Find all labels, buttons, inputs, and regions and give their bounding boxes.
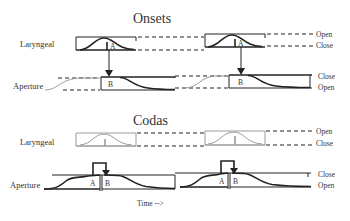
- marker-a: A: [219, 177, 225, 186]
- onsets-title: Onsets: [133, 11, 171, 26]
- onsets-arrow-2: [237, 47, 245, 75]
- codas-aperture-gesture-1: A B: [44, 163, 175, 191]
- onsets-arrow-1: [105, 50, 113, 77]
- codas-laryngeal-gesture-2: [205, 131, 313, 145]
- onsets-aperture-close-label: Close: [318, 72, 336, 81]
- onsets-laryngeal-open-label: Open: [316, 30, 332, 39]
- codas-aperture-gesture-2: A B: [175, 161, 311, 189]
- codas-aperture-close-label: Close: [318, 170, 336, 179]
- gesture-timing-diagram: Onsets Laryngeal A A Open Close Aperture: [0, 0, 350, 221]
- marker-b: B: [233, 177, 238, 186]
- onsets-aperture-gesture-1: B: [45, 77, 175, 90]
- marker-a: A: [110, 42, 116, 51]
- marker-b: B: [105, 179, 110, 188]
- codas-laryngeal-label: Laryngeal: [20, 137, 55, 147]
- marker-b: B: [238, 78, 243, 87]
- onsets-aperture-gesture-2: B: [175, 75, 312, 88]
- codas-laryngeal-close-label: Close: [316, 139, 334, 148]
- onsets-aperture-label: Aperture: [13, 81, 43, 91]
- onsets-laryngeal-close-label: Close: [316, 41, 334, 50]
- marker-a: A: [238, 39, 244, 48]
- time-axis-label: Time -->: [137, 199, 164, 208]
- onsets-laryngeal-label: Laryngeal: [20, 39, 55, 49]
- marker-a: A: [90, 179, 96, 188]
- codas-aperture-open-label: Open: [318, 181, 334, 190]
- codas-laryngeal-open-label: Open: [316, 127, 332, 136]
- codas-aperture-label: Aperture: [10, 180, 40, 190]
- onsets-aperture-open-label: Open: [318, 83, 334, 92]
- onsets-laryngeal-gesture-1: A: [76, 37, 204, 51]
- codas-title: Codas: [133, 113, 168, 128]
- onsets-laryngeal-gesture-2: A: [205, 34, 313, 48]
- codas-laryngeal-gesture-1: [76, 133, 204, 146]
- marker-b: B: [108, 80, 113, 89]
